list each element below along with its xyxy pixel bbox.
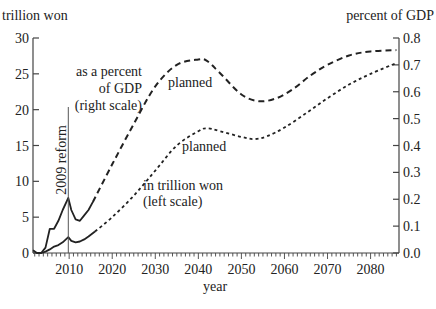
x-tick-label: 2050 bbox=[227, 262, 255, 277]
right-tick-label: 0.2 bbox=[403, 192, 421, 207]
x-tick-label: 2040 bbox=[184, 262, 212, 277]
series-solid-right bbox=[33, 198, 93, 253]
right-tick-label: 0.6 bbox=[403, 85, 421, 100]
reform-label: 2009 reform bbox=[54, 125, 69, 195]
left-tick-label: 25 bbox=[15, 67, 29, 82]
x-tick-label: 2080 bbox=[357, 262, 385, 277]
x-tick-label: 2010 bbox=[55, 262, 83, 277]
pct-label-line1: as a percent bbox=[76, 64, 142, 79]
x-axis-label: year bbox=[203, 279, 227, 294]
planned-label-won: planned bbox=[182, 139, 226, 154]
left-tick-label: 20 bbox=[15, 103, 29, 118]
right-tick-label: 0.5 bbox=[403, 112, 421, 127]
left-tick-label: 5 bbox=[22, 210, 29, 225]
x-tick-label: 2030 bbox=[141, 262, 169, 277]
right-tick-label: 0.3 bbox=[403, 165, 421, 180]
left-tick-label: 30 bbox=[15, 31, 29, 46]
right-tick-label: 0.8 bbox=[403, 31, 421, 46]
x-tick-label: 2070 bbox=[314, 262, 342, 277]
right-tick-label: 0.4 bbox=[403, 139, 421, 154]
series-solid-left bbox=[37, 232, 95, 254]
left-tick-label: 10 bbox=[15, 174, 29, 189]
x-tick-label: 2020 bbox=[98, 262, 126, 277]
won-label-line1: in trillion won bbox=[143, 178, 223, 193]
right-tick-label: 0.0 bbox=[403, 246, 421, 261]
left-axis-label: trillion won bbox=[2, 8, 68, 23]
planned-label-pct: planned bbox=[168, 75, 212, 90]
right-axis-label: percent of GDP bbox=[346, 8, 434, 23]
chart-svg: 0510152025300.00.10.20.30.40.50.60.70.82… bbox=[0, 0, 436, 309]
pct-label-line2: of GDP bbox=[99, 81, 142, 96]
left-tick-label: 0 bbox=[22, 246, 29, 261]
right-tick-label: 0.7 bbox=[403, 58, 421, 73]
won-label-line2: (left scale) bbox=[143, 194, 203, 210]
pct-label-line3: (right scale) bbox=[75, 98, 143, 114]
right-tick-label: 0.1 bbox=[403, 219, 421, 234]
left-tick-label: 15 bbox=[15, 139, 29, 154]
x-tick-label: 2060 bbox=[270, 262, 298, 277]
